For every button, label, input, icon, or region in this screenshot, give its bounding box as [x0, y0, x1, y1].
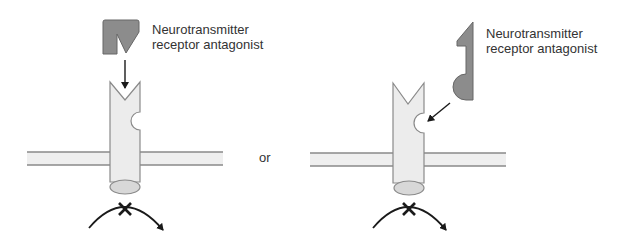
right-panel	[310, 22, 506, 230]
right-blocked-x-icon	[403, 203, 415, 215]
right-receptor	[393, 83, 424, 183]
right-antagonist-label-line2: receptor antagonist	[486, 41, 597, 56]
right-effector-ellipse	[394, 181, 424, 195]
right-antagonist-shape	[453, 22, 473, 100]
left-antagonist-label-line2: receptor antagonist	[152, 37, 263, 52]
left-receptor	[110, 82, 140, 182]
right-antagonist-label: Neurotransmitter receptor antagonist	[486, 26, 597, 56]
left-antagonist-shape	[103, 20, 139, 54]
left-antagonist-label-line1: Neurotransmitter	[152, 22, 263, 37]
left-effector-ellipse	[110, 180, 140, 194]
or-connector: or	[259, 150, 271, 165]
left-blocked-x-icon	[119, 203, 131, 215]
right-binding-arrow	[428, 103, 450, 121]
right-antagonist-label-line1: Neurotransmitter	[486, 26, 597, 41]
left-antagonist-label: Neurotransmitter receptor antagonist	[152, 22, 263, 52]
